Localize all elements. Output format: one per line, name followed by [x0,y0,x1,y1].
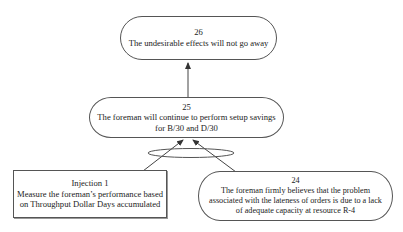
node-24: 24 The foreman firmly believes that the … [198,171,393,221]
arrow-24-to-25 [193,140,236,172]
injection-1-title: Injection 1 [72,178,109,189]
node-24-text-line3: of adequate capacity at resource R-4 [236,206,355,216]
node-24-text-line1: The foreman firmly believes that the pro… [221,186,370,196]
node-25-text-line1: The foreman will continue to perform set… [97,112,275,123]
node-25-number: 25 [182,102,191,113]
node-24-number: 24 [291,176,299,186]
node-24-text-line2: associated with the lateness of orders i… [209,196,382,206]
injection-1-text-line2: on Throughput Dollar Days accumulated [20,199,161,210]
arrow-injection1-to-25 [143,140,183,171]
node-25: 25 The foreman will continue to perform … [89,97,284,138]
node-26: 26 The undesirable effects will not go a… [120,16,277,60]
node-25-text-line2: for B/30 and D/30 [155,123,218,134]
and-connector-ellipse [148,149,234,158]
injection-1-text-line1: Measure the foreman’s performance based [17,189,163,200]
node-injection-1: Injection 1 Measure the foreman’s perfor… [13,170,167,218]
node-26-text: The undesirable effects will not go away [129,38,269,49]
node-26-number: 26 [194,27,203,38]
